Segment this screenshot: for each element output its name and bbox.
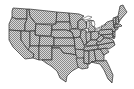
state-ks (54, 38, 75, 46)
state-me (118, 5, 127, 22)
lake-erie (95, 27, 100, 30)
us-map (0, 0, 134, 89)
state-wa (12, 8, 27, 19)
state-or (9, 17, 27, 31)
state-wy (35, 24, 52, 36)
state-nd (56, 12, 70, 22)
lake-michigan (87, 21, 89, 29)
state-wi (78, 19, 87, 30)
state-co (39, 36, 54, 46)
state-ms (84, 51, 89, 64)
states-layer (9, 5, 127, 83)
state-fl (91, 60, 113, 83)
state-nm (39, 46, 52, 60)
